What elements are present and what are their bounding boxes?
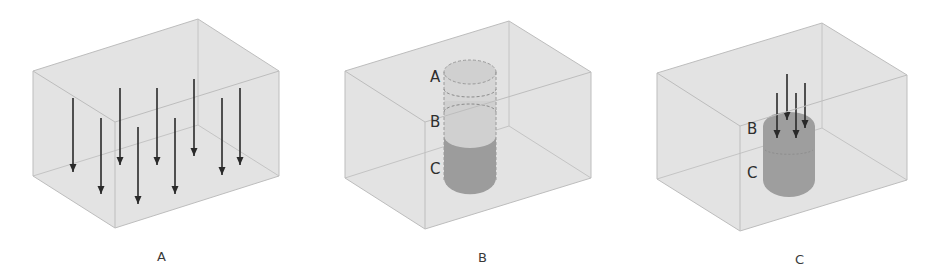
zone-label-b: B [747,120,757,138]
panel-b-cylinder [444,60,496,194]
panel-caption-b: B [478,250,487,265]
zone-label-c: C [747,164,757,182]
panel-caption-a: A [157,249,166,264]
zone-label-a: A [430,68,440,86]
panel-caption-c: C [795,252,804,267]
zone-label-c: C [430,160,440,178]
zone-label-b: B [430,113,440,131]
panel-c-cylinder [763,112,815,197]
panel-a-box [33,19,279,228]
figure-canvas [0,0,937,279]
